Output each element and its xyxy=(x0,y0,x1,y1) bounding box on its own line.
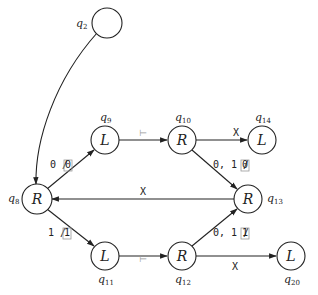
edge-label-q12-q20: X xyxy=(232,261,238,272)
state-q12: R q12 xyxy=(168,242,196,287)
svg-text:q20: q20 xyxy=(284,273,300,287)
state-q13: R q13 xyxy=(234,185,283,213)
state-q20: L q20 xyxy=(277,242,305,287)
svg-text:q14: q14 xyxy=(255,111,272,125)
state-q2: q2 xyxy=(76,8,122,38)
state-diagram: 0 / 0 ⊢ X 0, 1 / 0 X 1 / 1 ⊢ 0, 1 / 1 X … xyxy=(0,0,318,295)
edge-label-q10-q14: X xyxy=(233,127,239,138)
edge-boxed-q8-q11: 1 xyxy=(64,227,70,238)
state-q10: R q10 xyxy=(168,111,196,154)
svg-text:q2: q2 xyxy=(76,17,88,31)
svg-text:R: R xyxy=(242,191,254,207)
edge-label-q13-q8: X xyxy=(140,186,146,197)
svg-text:R: R xyxy=(176,132,188,148)
svg-text:L: L xyxy=(256,132,266,148)
svg-text:q10: q10 xyxy=(175,111,191,125)
svg-text:q11: q11 xyxy=(98,273,114,287)
edge-boxed-q10-q13: 0 xyxy=(242,159,248,170)
state-q14: L q14 xyxy=(248,111,276,154)
edge-label-q11-q12: ⊢ xyxy=(139,254,147,264)
state-q8: R q8 xyxy=(8,184,52,214)
state-q9: L q9 xyxy=(91,111,119,154)
edge-label-q9-q10: ⊢ xyxy=(139,128,147,138)
svg-text:R: R xyxy=(31,191,43,207)
svg-text:q12: q12 xyxy=(175,273,191,287)
edge-boxed-q8-q9: 0 xyxy=(65,159,71,170)
svg-text:q13: q13 xyxy=(267,192,283,206)
svg-text:L: L xyxy=(99,248,109,264)
svg-text:R: R xyxy=(176,248,188,264)
state-q11: L q11 xyxy=(91,242,119,287)
svg-text:q9: q9 xyxy=(100,111,112,125)
edge-boxed-q12-q13: 1 xyxy=(242,227,248,238)
svg-text:L: L xyxy=(99,132,109,148)
svg-text:q8: q8 xyxy=(8,192,20,206)
svg-text:L: L xyxy=(285,248,295,264)
